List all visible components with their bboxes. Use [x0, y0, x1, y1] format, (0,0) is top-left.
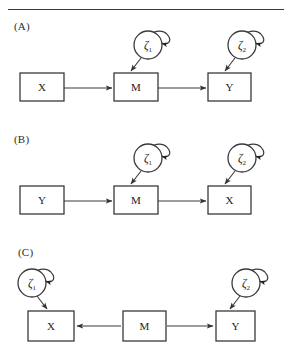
zeta-subscript: 2 [243, 159, 247, 167]
b-circle-zeta-1-text: ζ1 [134, 151, 162, 170]
zeta-subscript: 1 [149, 159, 153, 167]
zeta-subscript: 1 [33, 284, 37, 292]
c-box-m-text: M [123, 319, 166, 333]
c-arrow-zeta1-to-x [37, 296, 47, 309]
b-box-m-text: M [114, 193, 158, 207]
a-circle-zeta-2-text: ζ2 [228, 38, 256, 57]
b-box-y-text: Y [20, 193, 64, 207]
a-arrow-zeta1-to-m [131, 58, 141, 71]
panel-label-a: (A) [14, 20, 30, 32]
zeta-subscript: 1 [149, 46, 153, 54]
a-box-y-text: Y [208, 80, 251, 94]
a-circle-zeta-1-text: ζ1 [134, 38, 162, 57]
c-arrow-zeta2-to-y [230, 296, 240, 309]
a-arrow-zeta2-to-y [225, 58, 235, 71]
b-arrow-zeta2-to-x [225, 171, 235, 184]
c-box-x-text: X [28, 319, 74, 333]
panel-label-b: (B) [14, 133, 29, 145]
zeta-subscript: 2 [247, 284, 251, 292]
zeta-subscript: 2 [243, 46, 247, 54]
figure-canvas: (A)XMYζ1ζ2(B)YMXζ1ζ2(C)XMYζ1ζ2 [0, 0, 291, 352]
a-box-m-text: M [114, 80, 158, 94]
b-box-x-text: X [208, 193, 251, 207]
c-box-y-text: Y [216, 319, 255, 333]
b-arrow-zeta1-to-m [131, 171, 141, 184]
c-circle-zeta-2-text: ζ2 [232, 276, 260, 295]
a-box-x-text: X [20, 80, 64, 94]
b-circle-zeta-2-text: ζ2 [228, 151, 256, 170]
panel-label-c: (C) [18, 246, 33, 258]
c-circle-zeta-1-text: ζ1 [18, 276, 46, 295]
